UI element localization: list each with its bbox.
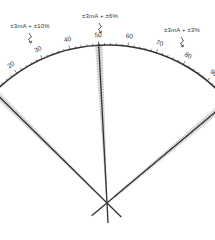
scale-label-20: 20	[6, 59, 16, 69]
scale-tick	[183, 61, 185, 65]
lightning-icon	[181, 37, 184, 47]
lightning-icon	[29, 33, 32, 43]
scale-tick	[207, 78, 210, 81]
scale-label-80: 80	[183, 50, 193, 60]
scale-tick	[15, 70, 17, 73]
needle-10	[0, 91, 121, 217]
scale-label-70: 70	[155, 38, 164, 47]
tolerance-label-100: ±3mA + ±3%	[164, 27, 200, 33]
tolerance-label-10: ±3mA + ±10%	[10, 23, 50, 29]
meter-diagram: 0102030405060708090100 ±3mA + ±10% ±3mA …	[0, 0, 215, 240]
meter-scale-svg: 0102030405060708090100	[0, 0, 215, 240]
scale-label-30: 30	[33, 44, 43, 54]
scale-label-40: 40	[63, 35, 72, 44]
scale-label-60: 60	[125, 32, 133, 40]
scale-label-90: 90	[209, 68, 215, 78]
scale-arc	[0, 45, 215, 122]
needle-100	[92, 100, 215, 216]
tolerance-label-50: ±3mA + ±6%	[82, 13, 118, 19]
